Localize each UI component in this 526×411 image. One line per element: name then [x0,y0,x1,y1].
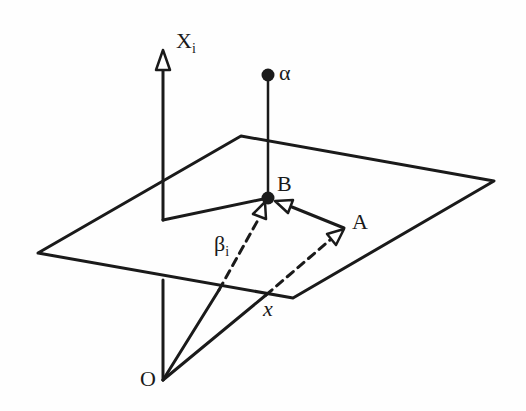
diagram-canvas: Xi α B A βi x O [0,0,526,411]
beta-label-sub: i [225,244,229,259]
axis-label-sub: i [192,41,196,56]
axis-label-main: X [176,28,192,53]
axis-label: Xi [176,30,196,56]
b-point [262,192,275,205]
alpha-label: α [279,62,291,84]
o-to-b-solid [163,290,219,380]
diagram-svg [0,0,526,411]
o-label: O [140,368,156,390]
a-label: A [352,211,368,233]
beta-label-main: β [214,231,225,256]
axis-arrow-icon [156,50,170,70]
b-label: B [277,173,292,195]
alpha-point [262,69,275,82]
x-label: x [263,298,273,320]
beta-label: βi [214,233,229,259]
o-to-a-solid [163,295,266,380]
